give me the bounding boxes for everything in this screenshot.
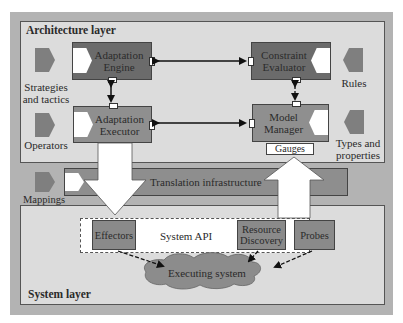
down-arrow-icon: [84, 143, 146, 215]
up-arrow-icon: [264, 157, 324, 218]
executing-system-label: Executing system: [168, 267, 246, 279]
